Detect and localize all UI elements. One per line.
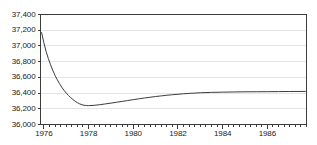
y-axis-tick-label: 37,200 bbox=[12, 26, 36, 34]
y-axis-tick-label: 36,800 bbox=[12, 58, 36, 66]
y-axis-tick-label: 36,600 bbox=[12, 73, 36, 81]
y-axis-tick-label: 36,400 bbox=[12, 89, 36, 97]
x-axis-tick-label: 1980 bbox=[113, 130, 153, 138]
x-axis-tick-label: 1978 bbox=[69, 130, 109, 138]
chart-background bbox=[0, 0, 317, 145]
y-axis-tick-label: 36,200 bbox=[12, 105, 36, 113]
y-axis-tick-label: 37,000 bbox=[12, 42, 36, 50]
y-axis-tick-label: 37,400 bbox=[12, 11, 36, 19]
x-axis-tick-label: 1984 bbox=[203, 130, 243, 138]
x-axis-tick-label: 1982 bbox=[158, 130, 198, 138]
y-axis-tick-label: 36,000 bbox=[12, 121, 36, 129]
chart-canvas bbox=[0, 0, 317, 145]
x-axis-tick-label: 1986 bbox=[247, 130, 287, 138]
x-axis-tick-label: 1976 bbox=[24, 130, 64, 138]
line-chart: 36,00036,20036,40036,60036,80037,00037,2… bbox=[0, 0, 317, 145]
